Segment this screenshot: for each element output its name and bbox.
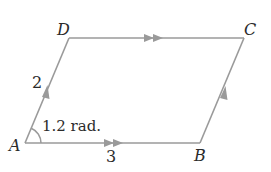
side-label-ab: 3 xyxy=(106,149,116,165)
vertex-label-b: B xyxy=(194,148,206,164)
vertex-label-a: A xyxy=(9,138,21,154)
vertex-label-c: C xyxy=(244,22,256,38)
side-label-ad: 2 xyxy=(32,75,42,91)
side-bc xyxy=(200,38,244,143)
double-arrow-icon xyxy=(153,34,163,42)
angle-arc xyxy=(31,128,41,143)
angle-label: 1.2 rad. xyxy=(42,119,101,134)
double-arrow-icon xyxy=(104,139,114,147)
vertex-label-d: D xyxy=(57,22,70,38)
double-arrow-icon xyxy=(113,139,123,147)
double-arrow-icon xyxy=(144,34,154,42)
parallelogram-diagram: D C A B 2 3 1.2 rad. xyxy=(0,0,271,172)
